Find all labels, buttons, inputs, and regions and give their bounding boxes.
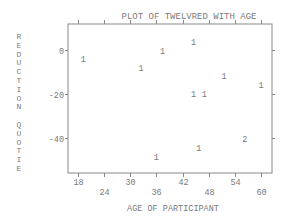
- data-points: 11111111112: [81, 38, 264, 162]
- y-label-char: U: [17, 129, 22, 138]
- data-point: 2: [242, 135, 247, 145]
- data-point: 1: [196, 144, 201, 154]
- y-axis-label: REDUCTIONQUOTIE: [17, 32, 22, 173]
- y-label-char: T: [17, 146, 22, 155]
- y-label-char: R: [17, 32, 22, 41]
- data-point: 1: [81, 55, 86, 65]
- y-label-char: N: [17, 102, 22, 111]
- data-point: 1: [258, 81, 263, 91]
- plot-border: [68, 24, 272, 173]
- y-label-char: D: [17, 50, 22, 59]
- data-point: 1: [221, 72, 226, 82]
- plot-frame: [68, 24, 272, 173]
- x-tick-label: 36: [151, 188, 161, 198]
- x-tick-label: 30: [125, 178, 135, 188]
- y-tick-label: -20: [49, 91, 64, 101]
- y-label-char: E: [17, 164, 22, 173]
- y-tick-label: -40: [49, 135, 64, 145]
- y-label-char: I: [17, 155, 22, 164]
- y-tick-label: 0: [59, 47, 64, 57]
- data-point: 1: [202, 90, 207, 100]
- x-tick-label: 48: [204, 188, 214, 198]
- data-point: 1: [139, 64, 144, 74]
- y-label-char: O: [17, 94, 22, 103]
- x-tick-label: 60: [256, 188, 266, 198]
- y-label-char: I: [17, 85, 22, 94]
- data-point: 1: [191, 38, 196, 48]
- y-label-char: O: [17, 138, 22, 147]
- x-tick-label: 54: [230, 178, 240, 188]
- y-label-char: U: [17, 58, 22, 67]
- x-axis-label: AGE OF PARTICIPANT: [127, 204, 219, 214]
- y-label-char: Q: [17, 120, 22, 129]
- data-point: 1: [154, 153, 159, 163]
- y-label-char: T: [17, 76, 22, 85]
- data-point: 1: [160, 47, 165, 57]
- chart-title: PLOT OF TWELVRED WITH AGE: [121, 12, 256, 22]
- x-tick-label: 24: [99, 188, 109, 198]
- x-tick-label: 42: [178, 178, 188, 188]
- x-tick-label: 18: [73, 178, 83, 188]
- data-point: 1: [191, 90, 196, 100]
- scatter-chart: 18243036424854600-20-40 11111111112 PLOT…: [0, 0, 289, 222]
- y-label-char: C: [17, 67, 22, 76]
- y-label-char: E: [17, 41, 22, 50]
